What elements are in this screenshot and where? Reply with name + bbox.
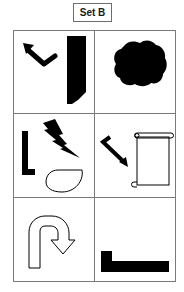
cell-r2-c2	[103, 133, 174, 187]
cloud-blob-icon	[114, 41, 167, 87]
bent-arrow-up-left-icon	[23, 43, 55, 64]
black-vertical-bar-icon	[67, 36, 86, 104]
teardrop-outline-icon	[46, 170, 82, 192]
black-l-shape-icon	[22, 131, 35, 175]
cell-r3-c2	[101, 251, 169, 272]
cell-r2-c1	[22, 119, 82, 192]
u-turn-arrow-icon	[29, 216, 75, 268]
cell-r1-c1	[23, 36, 86, 104]
black-stepped-bar-icon	[101, 251, 169, 272]
figures-layer	[0, 0, 184, 292]
cell-r1-c2	[114, 41, 167, 87]
scroll-outline-icon	[132, 133, 174, 187]
lightning-bolt-icon	[43, 119, 80, 158]
cell-r3-c1	[29, 216, 75, 268]
bent-arrow-down-right-icon	[103, 137, 128, 167]
